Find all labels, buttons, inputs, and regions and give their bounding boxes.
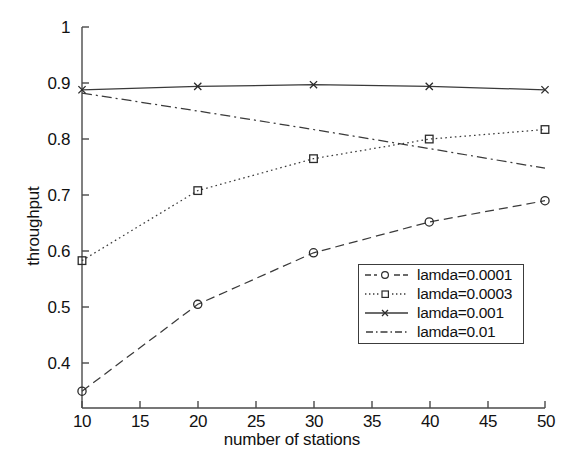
series-line-1 bbox=[82, 130, 545, 261]
x-axis-ticks bbox=[82, 401, 545, 408]
legend-sample-solid-x bbox=[363, 304, 415, 322]
legend-item-2[interactable]: lamda=0.001 bbox=[363, 303, 523, 322]
series-3 bbox=[82, 93, 545, 168]
legend-label-1: lamda=0.0003 bbox=[417, 285, 512, 303]
legend-sample-dashdot bbox=[363, 323, 415, 341]
legend-sample-dotted-square bbox=[363, 285, 415, 303]
legend-label-0: lamda=0.0001 bbox=[417, 266, 512, 284]
series-line-3 bbox=[82, 93, 545, 168]
y-axis-ticks bbox=[82, 27, 89, 363]
legend-item-3[interactable]: lamda=0.01 bbox=[363, 322, 523, 341]
series-layer bbox=[78, 81, 549, 395]
legend-label-3: lamda=0.01 bbox=[417, 323, 495, 341]
throughput-line-chart: 1 0.9 0.8 0.7 0.6 0.5 0.4 10 15 20 25 30… bbox=[0, 0, 584, 473]
plot-canvas bbox=[0, 0, 584, 473]
series-2 bbox=[78, 81, 548, 93]
legend-sample-dashed-circle bbox=[363, 266, 415, 284]
series-1 bbox=[78, 126, 549, 265]
legend-item-1[interactable]: lamda=0.0003 bbox=[363, 284, 523, 303]
legend-label-2: lamda=0.001 bbox=[417, 304, 504, 322]
legend: lamda=0.0001 lamda=0.0003 lamda=0.001 la… bbox=[358, 264, 524, 344]
legend-item-0[interactable]: lamda=0.0001 bbox=[363, 265, 523, 284]
